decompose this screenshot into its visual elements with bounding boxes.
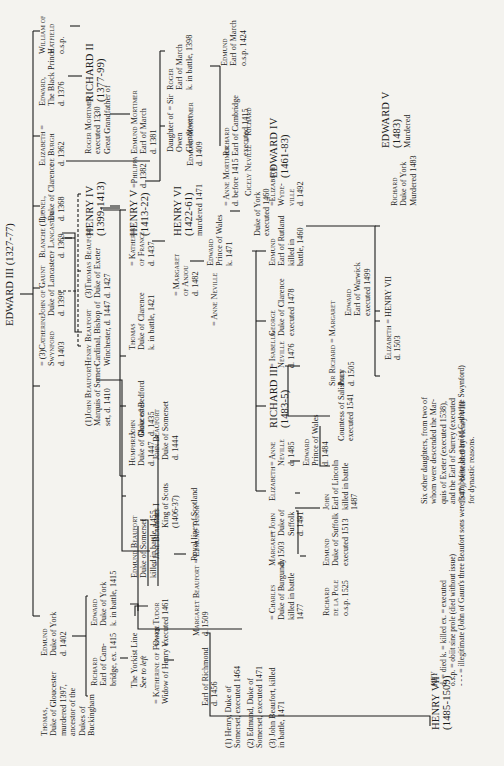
person-roger-march: RogerEarl of Marchk. in battle, 1398 [166, 35, 194, 90]
person-catherine-swynford: = (3)CatherineSwynfordd. 1403 [38, 315, 66, 366]
person-katherine-widow: = Katherine of FranceWidow of Henry V [152, 625, 171, 704]
person-edmund-mortimer-1381: Edmund MortimerEarl of Marchd. 1381 [130, 90, 158, 154]
person-anne-neville-first: = Anne Neville [210, 273, 219, 326]
person-thomas-clarence: ThomasDuke of Clarencek. in battle, 1421 [128, 292, 156, 350]
person-margaret-anjou: = Margaretof Anjoud. 1482 [172, 254, 200, 296]
person-edward-v: EDWARD V(1483)Murdered [380, 91, 413, 148]
person-edmund-york: EdmundDuke of Yorkd. 1402 [40, 612, 68, 656]
person-somerset-sons: (1) Henry, Duke ofSomerset, executed 146… [224, 666, 286, 748]
person-richard-cambridge-top: RichardEarl of Cam-bridge, ex. 1415 [90, 633, 118, 686]
person-anne-neville-1485: = AnneNevilled. 1485 [268, 439, 296, 466]
person-elizabeth-woodville: =ElizabethWyde-villed. 1492 [268, 167, 306, 206]
person-richard-iii: RICHARD III(1483-5) [268, 365, 290, 428]
person-charles-burgundy: = CharlesDuke of Burgundykilled in battl… [268, 559, 306, 620]
person-richard-de-la-pole: Richardde la Poleo.s.p. 1525 [322, 580, 350, 616]
key-legend: KEY d. = died k. = killed ex. = executed… [430, 365, 466, 686]
person-edward-wales-1484: EdwardPrince of Walesd. 1484 [302, 415, 330, 466]
person-margaret-beaufort: Margaret Beaufort = Edmund Tudord. 1509 [192, 505, 211, 636]
person-edmund-rutland: EdmundEarl of Rutlandkilled inbattle, 14… [268, 216, 306, 266]
person-elizabeth-suffolk: Elizabeth [268, 467, 277, 501]
person-john-beaufort-1444: John BeaufortDuke of Somersetd. 1444 [152, 401, 180, 460]
person-edmund-tudor: Earl of Richmondd. 1456 [201, 647, 220, 706]
family-tree-canvas: EDWARD III (1327-77) Edward,The Black Pr… [0, 0, 504, 766]
person-katherine-france-1437: = Katherineof Franced. 1437 [128, 224, 156, 266]
edward-iii-title: EDWARD III (1327-77) [4, 223, 15, 326]
person-edmund-beaufort: Edmund BeaufortDuke of Somersetkilled in… [130, 510, 158, 578]
yorkist-line-note: The Yorkist LineSee to left [130, 633, 149, 688]
person-george-clarence: GeorgeDuke of Clarenceexecuted 1478 [268, 278, 296, 336]
person-edward-black-prince: Edward,The Black Princed. 1376 [38, 49, 66, 106]
person-thomas-gloucester: Thomas,Duke of Gloucestermurdered 1397,a… [40, 672, 96, 736]
person-cicely-neville: Cicely Neville = Richard [244, 107, 253, 196]
person-william-hatfield: William ofHatfieldo.s.p. [38, 16, 66, 54]
person-roger-mortimer-1330: Roger Mortimerexecuted 1330Great Grandfa… [84, 85, 112, 154]
person-thomas-beaufort: (3)Thomas BeaufortDuke of Exeterd. 1427 [84, 227, 112, 298]
person-john-lincoln: JohnEarl of Lincolnkilled in battle1487 [322, 460, 360, 510]
person-margaret-salisbury: Countess of Salisburyexecuted 1541 [337, 369, 356, 441]
person-richard-york-1483: RichardDuke of YorkMurdered 1483 [390, 155, 418, 206]
person-edward-york-1415: EdwardDuke of Yorkk. in battle, 1415 [90, 571, 118, 626]
person-anne-mortimer: = Anne Mortimerd. before 1415 [222, 146, 241, 206]
person-elizabeth-de-burgh: Elizabeth =de Burghd. 1362 [38, 125, 66, 166]
person-isabella-neville: = IsabellaNevilled. 1476 [268, 332, 296, 368]
person-sir-edmund-mortimer: Edmund Mortimerd. 1409 [186, 102, 205, 166]
person-elizabeth-henry-vii: Elizabeth = HENRY VIId. 1503 [384, 276, 403, 360]
person-blanche: Blanche (1) =of Lancasterd. 1369 [38, 210, 66, 258]
person-edmund-march-1424: EdmundEarl of Marcho.s.p. 1424 [220, 20, 248, 66]
person-henry-vi: HENRY VI(1422-61)murdered 1471 [172, 184, 205, 236]
person-john-beaufort-1410: (1)John BeaufortMarquis of Somer-set, d.… [84, 364, 112, 426]
person-john-of-gaunt: John of GauntDuke of Lancasterd. 1399 [38, 256, 66, 316]
person-edmund-suffolk: EdmundDuke of Suffolkexecuted 1513 [322, 513, 350, 566]
person-philippa: =Philippad. 1382 [130, 156, 149, 188]
person-henry-beaufort: Henry BeaufortCardinal, Bishop ofWinches… [84, 301, 112, 366]
person-edward-wales-1471: EdwardPrince of Walesk. 1471 [206, 215, 234, 266]
